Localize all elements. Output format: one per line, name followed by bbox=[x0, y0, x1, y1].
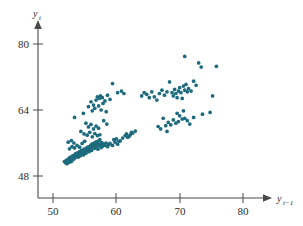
data-point bbox=[101, 96, 105, 100]
data-point bbox=[147, 96, 151, 100]
y-tick-label-80: 80 bbox=[18, 38, 30, 50]
data-point bbox=[189, 89, 193, 93]
data-point bbox=[155, 98, 159, 102]
data-point bbox=[97, 126, 101, 130]
data-point bbox=[188, 122, 192, 126]
data-point bbox=[169, 123, 173, 127]
y-tick-label-64: 64 bbox=[18, 104, 30, 116]
data-point bbox=[111, 144, 115, 148]
plot-canvas: 80 64 48 50 60 70 80 y t y t−1 bbox=[0, 0, 303, 226]
data-point bbox=[180, 97, 184, 101]
x-axis-title-base: y bbox=[276, 193, 282, 204]
data-point bbox=[82, 132, 86, 136]
data-point bbox=[78, 145, 82, 149]
y-axis-title-subscript: t bbox=[39, 14, 42, 22]
data-point bbox=[140, 94, 144, 98]
x-tick-label-50: 50 bbox=[48, 205, 60, 217]
data-point bbox=[79, 130, 83, 134]
axis-group bbox=[34, 20, 272, 202]
data-point bbox=[171, 118, 175, 122]
data-point bbox=[82, 111, 86, 115]
data-point bbox=[122, 92, 126, 96]
data-point bbox=[73, 116, 77, 120]
data-point bbox=[164, 124, 168, 128]
x-axis-title-subscript: t−1 bbox=[283, 199, 293, 207]
data-point bbox=[96, 147, 100, 151]
data-point bbox=[102, 119, 106, 123]
data-point bbox=[178, 86, 182, 90]
data-point bbox=[72, 141, 76, 145]
data-point bbox=[99, 108, 103, 112]
data-point bbox=[194, 83, 198, 87]
data-point bbox=[98, 133, 102, 137]
data-point bbox=[88, 130, 92, 134]
data-point bbox=[127, 135, 131, 139]
data-point bbox=[160, 88, 164, 92]
data-point bbox=[89, 123, 93, 127]
data-point bbox=[185, 90, 189, 94]
data-point bbox=[89, 100, 93, 104]
data-point bbox=[104, 110, 108, 114]
data-point bbox=[103, 99, 107, 103]
x-tick-label-60: 60 bbox=[111, 205, 123, 217]
data-point bbox=[201, 112, 205, 116]
data-point bbox=[185, 119, 189, 123]
data-point bbox=[133, 129, 137, 133]
data-point bbox=[130, 130, 134, 134]
data-point bbox=[175, 111, 179, 115]
y-tick-label-48: 48 bbox=[18, 170, 30, 182]
data-points-layer bbox=[63, 55, 219, 166]
data-point bbox=[163, 93, 167, 97]
data-point bbox=[197, 61, 201, 65]
data-point bbox=[208, 111, 212, 115]
data-point bbox=[84, 121, 88, 125]
data-point bbox=[94, 98, 98, 102]
x-axis-arrow-icon bbox=[263, 194, 272, 202]
data-point bbox=[106, 93, 110, 97]
data-point bbox=[168, 80, 172, 84]
data-point bbox=[87, 105, 91, 109]
data-point bbox=[92, 127, 96, 131]
data-point bbox=[199, 65, 203, 69]
y-axis-title: y t bbox=[32, 8, 42, 22]
x-tick-label-80: 80 bbox=[238, 205, 250, 217]
data-point bbox=[97, 104, 101, 108]
data-point bbox=[150, 90, 154, 94]
x-axis-title: y t−1 bbox=[276, 193, 293, 207]
data-point bbox=[152, 95, 156, 99]
data-point bbox=[192, 79, 196, 83]
data-point bbox=[170, 91, 174, 95]
data-point bbox=[108, 97, 112, 101]
data-point bbox=[111, 82, 115, 86]
data-point bbox=[117, 139, 121, 143]
data-point bbox=[182, 109, 186, 113]
data-point bbox=[211, 94, 215, 98]
data-point bbox=[173, 88, 177, 92]
data-point bbox=[105, 122, 109, 126]
data-point bbox=[192, 116, 196, 120]
data-point bbox=[92, 103, 96, 107]
data-point bbox=[175, 96, 179, 100]
scatter-plot-figure: 80 64 48 50 60 70 80 y t y t−1 bbox=[0, 0, 303, 226]
y-axis-title-base: y bbox=[32, 8, 38, 19]
x-tick-label-70: 70 bbox=[175, 205, 187, 217]
data-point bbox=[83, 139, 87, 143]
data-point bbox=[177, 120, 181, 124]
data-point bbox=[184, 83, 188, 87]
data-point bbox=[156, 125, 160, 129]
data-point bbox=[145, 92, 149, 96]
data-point bbox=[93, 106, 97, 110]
data-point bbox=[90, 135, 94, 139]
data-point bbox=[215, 64, 219, 68]
data-point bbox=[183, 55, 187, 59]
data-point bbox=[165, 90, 169, 94]
data-point bbox=[85, 133, 89, 137]
data-point bbox=[116, 91, 120, 95]
data-point bbox=[165, 130, 169, 134]
data-point bbox=[179, 91, 183, 95]
data-point bbox=[161, 116, 165, 120]
data-point bbox=[66, 140, 70, 144]
data-point bbox=[158, 92, 162, 96]
